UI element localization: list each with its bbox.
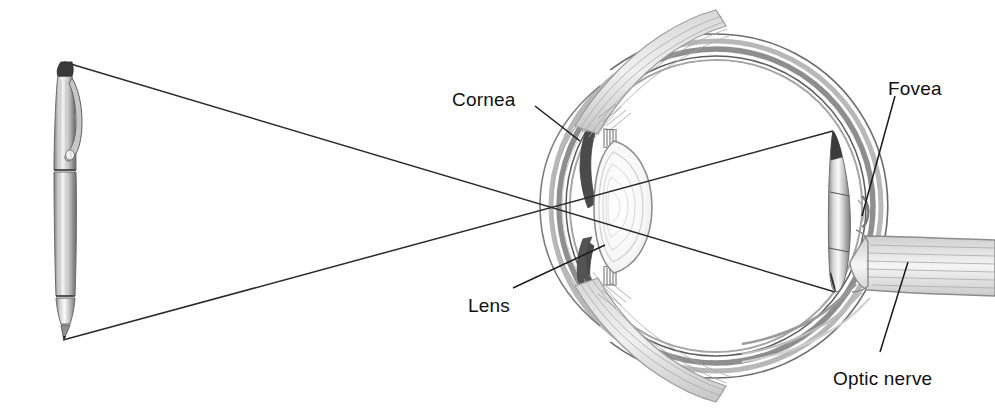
label-lens: Lens xyxy=(468,295,510,317)
pen-object xyxy=(54,62,82,341)
label-optic-nerve: Optic nerve xyxy=(833,368,932,390)
label-cornea: Cornea xyxy=(452,89,516,111)
diagram-canvas xyxy=(0,0,995,412)
label-fovea: Fovea xyxy=(888,78,942,100)
eye-diagram-figure: Cornea Lens Fovea Optic nerve xyxy=(0,0,995,412)
